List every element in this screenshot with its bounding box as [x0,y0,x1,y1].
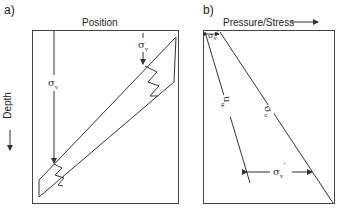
top-effective-stress-label: σv′ [208,29,219,41]
zigzag-upper [145,66,159,96]
diagram-canvas: σv σv uw σv σv′ σv′ [0,0,351,213]
tilted-layer [39,37,176,197]
